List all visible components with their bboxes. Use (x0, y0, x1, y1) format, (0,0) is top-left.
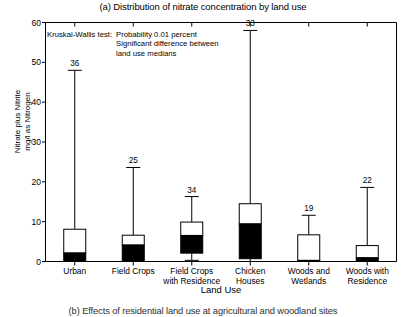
boxplot-box (181, 197, 203, 261)
box-lower-quartile-fill (64, 253, 86, 261)
axis-frame (46, 23, 397, 262)
box-n-label: 33 (246, 19, 255, 28)
x-axis-category-label-line: Field Crops (163, 266, 220, 276)
x-axis-category-label: Field Cropswith Residence (163, 266, 220, 286)
annotation-line: Probability 0.01 percent (116, 30, 218, 39)
x-axis-category-label-line: Field Crops (112, 266, 155, 276)
x-axis-category-label-line: Woods with (346, 266, 389, 276)
x-axis-category-label: Woods withResidence (346, 266, 389, 286)
boxplot-box (64, 70, 86, 261)
annotation-line: land use medians (116, 49, 218, 58)
box-lower-quartile-fill (122, 245, 144, 261)
boxplot-box (298, 215, 320, 261)
boxplot-box (356, 187, 378, 261)
box-upper-quartile-fill (298, 235, 320, 261)
box-n-label: 36 (70, 59, 79, 68)
x-axis-category-label-line: Urban (63, 266, 86, 276)
box-n-label: 19 (304, 204, 313, 213)
box-upper-quartile-fill (356, 246, 378, 258)
boxplot-figure: (a) Distribution of nitrate concentratio… (0, 0, 406, 317)
x-axis-category-label-line: Woods and (288, 266, 330, 276)
box-lower-quartile-fill (239, 224, 261, 259)
box-n-label: 34 (187, 186, 196, 195)
x-axis-category-label: Field Crops (112, 266, 155, 276)
boxplot-box (122, 167, 144, 261)
box-upper-quartile-fill (122, 235, 144, 245)
box-n-label: 25 (129, 156, 138, 165)
kruskal-wallis-annotation: Kruskal-Wallis test:Probability 0.01 per… (47, 30, 219, 58)
x-axis-category-label: Woods andWetlands (288, 266, 330, 286)
x-axis-category-label: Urban (63, 266, 86, 276)
boxplot-box (239, 30, 261, 261)
x-axis-label: Land Use (45, 284, 397, 295)
x-axis-category-label: ChickenHouses (235, 266, 265, 286)
box-n-label: 22 (363, 176, 372, 185)
annotation-line: Significant difference between (116, 39, 218, 48)
x-axis-category-label-line: Chicken (235, 266, 265, 276)
box-upper-quartile-fill (181, 222, 203, 236)
box-upper-quartile-fill (239, 204, 261, 224)
figure-subcaption: (b) Effects of residential land use at a… (0, 306, 406, 316)
box-upper-quartile-fill (64, 229, 86, 253)
annotation-label: Kruskal-Wallis test: (47, 30, 112, 39)
box-lower-quartile-fill (181, 236, 203, 254)
